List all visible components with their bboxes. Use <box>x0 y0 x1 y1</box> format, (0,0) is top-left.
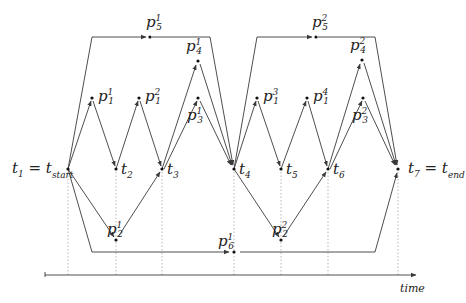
node-p4_2 <box>360 58 363 61</box>
label-p6_1: p16 <box>218 232 234 251</box>
edge-p3_2-t7 <box>365 101 395 165</box>
edge-p4_2-t7 <box>364 63 396 165</box>
edge-t2-p1_2 <box>116 101 138 169</box>
edge-p2_1-t3 <box>118 172 160 237</box>
node-t3 <box>160 167 163 170</box>
label-t6: t6 <box>333 160 345 180</box>
cycle-1-edges <box>68 37 233 252</box>
label-p4_2: p24 <box>350 36 366 55</box>
edge-p5_1-t4 <box>152 37 233 165</box>
label-p1_2: p21 <box>145 87 161 106</box>
labels: t1 = tstartt2t3t4t5t6t7 = tendp11p21p13p… <box>12 13 465 251</box>
edge-p4_1-t4 <box>200 64 232 165</box>
edge-p3_1-t4 <box>200 101 231 165</box>
edge-p1_2-t3 <box>140 101 161 166</box>
label-p2_2: p22 <box>272 220 288 239</box>
label-t7: t7 = tend <box>408 159 465 180</box>
node-t4 <box>232 167 235 170</box>
node-p1_4 <box>305 96 308 99</box>
node-p1_2 <box>137 96 140 99</box>
edge-p1_3-t5 <box>258 101 280 166</box>
label-t2: t2 <box>121 160 133 180</box>
node-p5_1 <box>148 35 151 38</box>
node-t6 <box>326 167 329 170</box>
time-axis-label: time <box>400 282 425 295</box>
label-t1: t1 = tstart <box>12 159 74 180</box>
label-t4: t4 <box>239 160 251 180</box>
label-p5_2: p25 <box>312 13 328 32</box>
label-p1_3: p31 <box>263 87 279 106</box>
edge-p6_1-t7 <box>240 173 397 252</box>
label-p5_1: p15 <box>146 13 162 32</box>
label-p3_1: p13 <box>187 106 203 125</box>
label-p1_4: p41 <box>313 87 329 106</box>
node-p4_1 <box>196 59 199 62</box>
edge-t5-p1_4 <box>281 101 306 169</box>
node-p5_2 <box>314 35 317 38</box>
edge-p1_1-t2 <box>93 101 115 166</box>
cycle-2-edges <box>234 37 397 252</box>
edge-p2_2-t6 <box>283 172 326 237</box>
edge-t1-p6_1 <box>68 169 229 252</box>
label-p1_1: p11 <box>98 87 114 106</box>
edge-p1_4-t6 <box>308 101 327 166</box>
edge-p5_2-t7 <box>318 37 397 165</box>
label-t3: t3 <box>167 160 179 180</box>
node-p3_2 <box>361 96 364 99</box>
node-t2 <box>114 167 117 170</box>
label-p3_2: p23 <box>352 106 368 125</box>
node-t5 <box>279 167 282 170</box>
diagram-svg: t1 = tstartt2t3t4t5t6t7 = tendp11p21p13p… <box>0 0 466 303</box>
node-p3_1 <box>196 96 199 99</box>
activity-time-diagram: t1 = tstartt2t3t4t5t6t7 = tendp11p21p13p… <box>0 0 466 303</box>
node-p1_3 <box>255 96 258 99</box>
edge-t1-p1_1 <box>68 101 91 169</box>
label-t5: t5 <box>286 160 298 180</box>
edge-t4-p1_3 <box>234 101 256 169</box>
node-t7 <box>396 167 399 170</box>
label-p2_1: p12 <box>107 220 123 239</box>
node-p1_1 <box>90 96 93 99</box>
label-p4_1: p14 <box>186 37 202 56</box>
